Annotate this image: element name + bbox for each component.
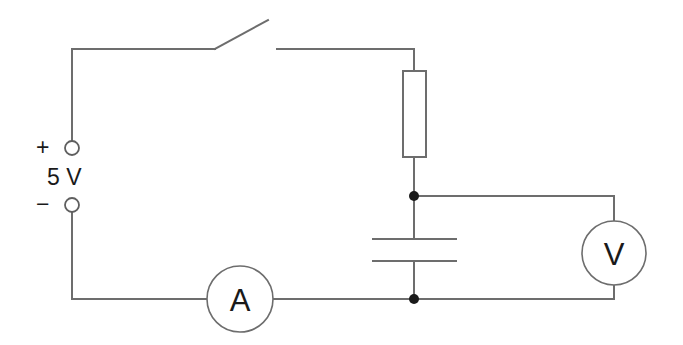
junction-dot-upper	[409, 191, 419, 201]
wire-negative-to-ammeter	[72, 205, 207, 299]
junction-dot-lower	[409, 294, 419, 304]
positive-terminal[interactable]	[65, 141, 79, 155]
wire-node-to-voltmeter-bottom	[414, 285, 614, 299]
negative-terminal[interactable]	[65, 198, 79, 212]
positive-terminal-label: +	[36, 136, 49, 159]
source-voltage-label: 5 V	[47, 166, 82, 189]
wire-node-to-voltmeter-top	[414, 196, 614, 221]
negative-terminal-label: −	[36, 193, 49, 216]
circuit-diagram: A V + 5 V −	[0, 0, 683, 345]
wire-switch-to-resistor	[277, 49, 414, 71]
voltmeter-label: V	[604, 237, 625, 272]
resistor-body	[403, 71, 426, 157]
wire-positive-to-switch	[72, 49, 215, 148]
circuit-schematic: A V	[0, 0, 683, 345]
switch-lever[interactable]	[215, 20, 268, 49]
ammeter-label: A	[230, 283, 251, 318]
